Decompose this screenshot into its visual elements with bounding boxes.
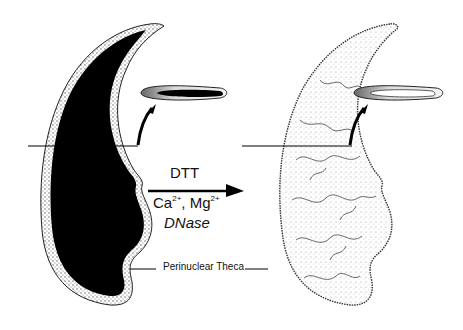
magnesium-label: , Mg bbox=[181, 194, 210, 211]
left-sperm-head bbox=[41, 24, 164, 305]
right-sperm-head bbox=[280, 24, 398, 305]
right-cross-section bbox=[354, 86, 443, 100]
left-cross-section bbox=[141, 86, 227, 100]
calcium-label: Ca bbox=[153, 194, 172, 211]
treatment-dtt-label: DTT bbox=[170, 164, 199, 181]
perinuclear-theca-label: Perinuclear Theca bbox=[163, 261, 244, 272]
treatment-ions-label: Ca2+, Mg2+ bbox=[153, 194, 220, 211]
treatment-arrowhead-icon bbox=[226, 184, 244, 197]
magnesium-charge: 2+ bbox=[211, 194, 220, 203]
calcium-charge: 2+ bbox=[172, 194, 181, 203]
treatment-dnase-label: DNase bbox=[164, 214, 210, 231]
extracted-theca-right bbox=[280, 24, 398, 305]
diagram-canvas bbox=[0, 0, 463, 330]
left-arrow bbox=[138, 108, 152, 145]
